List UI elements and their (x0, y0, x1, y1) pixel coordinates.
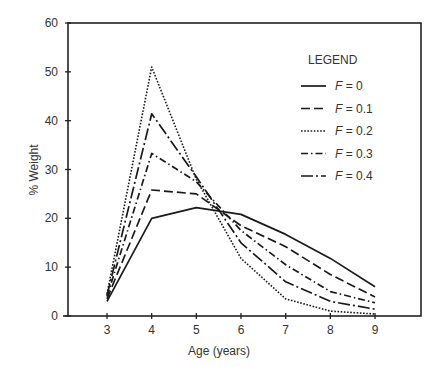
x-tick-label: 9 (372, 323, 379, 337)
y-tick-label: 60 (45, 16, 59, 30)
line-chart: 0102030405060 3456789 Age (years) % Weig… (0, 0, 445, 367)
legend-label: F = 0.3 (335, 147, 373, 161)
x-tick-label: 4 (148, 323, 155, 337)
x-tick-label: 5 (193, 323, 200, 337)
x-tick-label: 8 (327, 323, 334, 337)
series-line (107, 190, 375, 299)
legend-title: LEGEND (308, 53, 358, 67)
y-axis-ticks: 0102030405060 (45, 16, 71, 323)
legend-label: F = 0.4 (335, 169, 373, 183)
y-tick-label: 20 (45, 211, 59, 225)
x-tick-label: 3 (104, 323, 111, 337)
series-line (107, 114, 375, 309)
legend-label: F = 0 (335, 79, 363, 93)
x-tick-label: 6 (238, 323, 245, 337)
y-tick-label: 50 (45, 65, 59, 79)
y-tick-label: 10 (45, 260, 59, 274)
x-tick-label: 7 (282, 323, 289, 337)
y-tick-label: 40 (45, 114, 59, 128)
legend: LEGEND F = 0F = 0.1F = 0.2F = 0.3F = 0.4 (301, 53, 373, 183)
y-tick-label: 30 (45, 163, 59, 177)
legend-label: F = 0.1 (335, 102, 373, 116)
x-axis-label: Age (years) (188, 344, 250, 358)
y-axis-label: % Weight (27, 144, 41, 196)
legend-label: F = 0.2 (335, 124, 373, 138)
y-tick-label: 0 (51, 309, 58, 323)
series-line (107, 208, 375, 302)
